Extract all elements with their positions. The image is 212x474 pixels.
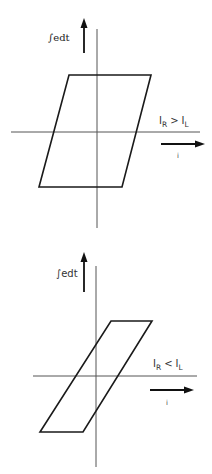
condition-label: IR<IL [153, 358, 184, 372]
y-direction-arrow-icon [81, 18, 88, 53]
y-axis-label: ∫edt [48, 32, 70, 43]
hysteresis-loop [39, 75, 151, 187]
x-direction-arrow-icon [150, 387, 194, 394]
x-axis-label: i [166, 399, 168, 407]
y-axis-label: ∫edt [56, 268, 78, 279]
x-axis-label: i [177, 152, 179, 160]
condition-label: IR>IL [159, 115, 190, 129]
y-direction-arrow-icon [81, 252, 88, 292]
diagram-2: ∫edt IR<IL i [33, 252, 197, 467]
diagram-1: ∫edt IR>IL i [11, 18, 205, 228]
diagram-canvas: ∫edt IR>IL i ∫edt IR<IL [0, 0, 212, 474]
x-direction-arrow-icon [161, 141, 205, 148]
